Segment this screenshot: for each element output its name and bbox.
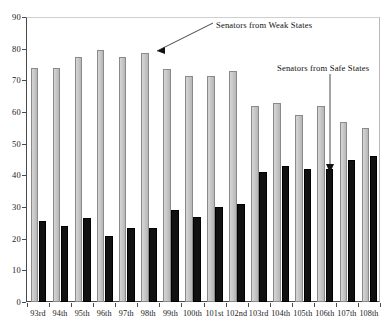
x-tick-label-104th: 104th xyxy=(271,309,290,318)
x-tick-mark-7 xyxy=(181,303,182,307)
bar-weak-93rd xyxy=(31,68,39,302)
x-tick-label-108th: 108th xyxy=(359,309,378,318)
x-tick-mark-9 xyxy=(226,303,227,307)
y-tick-mark-80 xyxy=(22,49,26,50)
y-tick-mark-70 xyxy=(22,80,26,81)
bar-safe-99th xyxy=(171,210,179,302)
bar-weak-105th xyxy=(295,115,303,302)
x-tick-label-98th: 98th xyxy=(141,309,156,318)
y-tick-mark-50 xyxy=(22,144,26,145)
y-tick-label-30: 30 xyxy=(12,203,21,212)
x-tick-mark-13 xyxy=(314,303,315,307)
x-axis: 93rd94th95th96th97th98th99th100th101st10… xyxy=(27,303,380,326)
x-tick-label-101st: 101st xyxy=(205,309,223,318)
safe-states-annotation-label: Senators from Safe States xyxy=(277,63,369,73)
bar-weak-94th xyxy=(53,68,61,302)
x-tick-mark-0 xyxy=(27,303,28,307)
y-tick-mark-0 xyxy=(22,302,26,303)
bar-safe-105th xyxy=(304,169,312,302)
y-tick-mark-40 xyxy=(22,175,26,176)
x-tick-mark-16 xyxy=(380,303,381,307)
x-tick-label-95th: 95th xyxy=(75,309,90,318)
y-tick-label-40: 40 xyxy=(12,171,21,180)
y-tick-mark-30 xyxy=(22,207,26,208)
bar-weak-106th xyxy=(317,106,325,302)
bar-safe-103rd xyxy=(259,172,267,302)
x-tick-mark-12 xyxy=(292,303,293,307)
bar-weak-100th xyxy=(185,76,193,302)
bar-safe-108th xyxy=(370,156,378,302)
x-tick-mark-15 xyxy=(358,303,359,307)
x-tick-mark-6 xyxy=(159,303,160,307)
bar-weak-98th xyxy=(141,53,149,302)
x-tick-mark-1 xyxy=(49,303,50,307)
y-axis: 0102030405060708090 xyxy=(0,0,27,326)
bar-weak-96th xyxy=(97,50,105,302)
bar-safe-94th xyxy=(61,226,69,302)
y-tick-mark-20 xyxy=(22,239,26,240)
bar-safe-93rd xyxy=(39,221,47,302)
x-tick-label-99th: 99th xyxy=(163,309,178,318)
x-tick-label-100th: 100th xyxy=(183,309,202,318)
y-tick-mark-10 xyxy=(22,270,26,271)
bar-weak-102nd xyxy=(229,71,237,302)
x-tick-mark-3 xyxy=(93,303,94,307)
x-tick-label-97th: 97th xyxy=(119,309,134,318)
x-tick-label-105th: 105th xyxy=(293,309,312,318)
bar-safe-98th xyxy=(149,228,157,302)
bar-chart: 0102030405060708090 93rd94th95th96th97th… xyxy=(0,0,391,326)
x-tick-label-93rd: 93rd xyxy=(30,309,45,318)
x-tick-mark-8 xyxy=(204,303,205,307)
x-tick-label-102nd: 102nd xyxy=(226,309,247,318)
x-tick-label-103rd: 103rd xyxy=(249,309,269,318)
bar-safe-102nd xyxy=(237,204,245,302)
bar-safe-106th xyxy=(326,169,334,302)
x-tick-label-107th: 107th xyxy=(337,309,356,318)
bar-weak-107th xyxy=(340,122,348,303)
x-tick-mark-14 xyxy=(336,303,337,307)
y-tick-label-60: 60 xyxy=(12,108,21,117)
y-tick-label-70: 70 xyxy=(12,76,21,85)
y-tick-label-80: 80 xyxy=(12,44,21,53)
x-tick-label-96th: 96th xyxy=(97,309,112,318)
bar-weak-97th xyxy=(119,57,127,302)
y-tick-label-50: 50 xyxy=(12,139,21,148)
y-tick-mark-90 xyxy=(22,17,26,18)
y-tick-label-0: 0 xyxy=(17,298,21,307)
y-tick-mark-60 xyxy=(22,112,26,113)
bar-weak-101st xyxy=(207,76,215,302)
bar-safe-97th xyxy=(127,228,135,302)
bars-layer xyxy=(27,17,380,302)
bar-safe-107th xyxy=(348,160,356,303)
x-tick-label-94th: 94th xyxy=(53,309,68,318)
x-tick-label-106th: 106th xyxy=(315,309,334,318)
x-tick-mark-5 xyxy=(137,303,138,307)
bar-safe-101st xyxy=(215,207,223,302)
bar-weak-103rd xyxy=(251,106,259,302)
bar-weak-99th xyxy=(163,69,171,302)
bar-weak-104th xyxy=(273,103,281,303)
y-tick-label-20: 20 xyxy=(12,234,21,243)
x-tick-mark-4 xyxy=(115,303,116,307)
bar-safe-95th xyxy=(83,218,91,302)
bar-weak-108th xyxy=(362,128,370,302)
bar-safe-104th xyxy=(282,166,290,302)
y-tick-label-90: 90 xyxy=(12,13,21,22)
weak-states-annotation-label: Senators from Weak States xyxy=(216,20,312,30)
x-tick-mark-10 xyxy=(248,303,249,307)
y-tick-label-10: 10 xyxy=(12,266,21,275)
bar-weak-95th xyxy=(75,57,83,302)
bar-safe-100th xyxy=(193,217,201,303)
x-tick-mark-2 xyxy=(71,303,72,307)
bar-safe-96th xyxy=(105,236,113,303)
x-tick-mark-11 xyxy=(270,303,271,307)
